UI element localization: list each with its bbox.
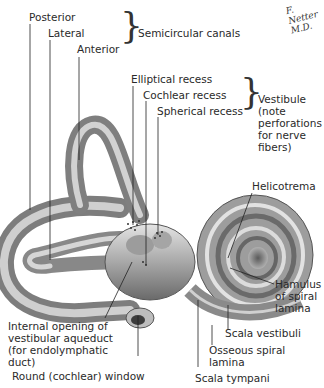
label-spherical-recess: Spherical recess — [157, 105, 243, 117]
label-semicircular-canals: Semicircular canals — [138, 27, 240, 39]
label-cochlear-recess: Cochlear recess — [143, 89, 226, 101]
label-scala-tympani: Scala tympani — [195, 372, 270, 384]
label-vestibular-aqueduct: Internal opening of vestibular aqueduct … — [8, 320, 113, 368]
label-scala-vestibuli: Scala vestibuli — [225, 327, 301, 339]
label-helicotrema: Helicotrema — [252, 180, 316, 192]
label-anterior: Anterior — [77, 43, 119, 55]
label-elliptical-recess: Elliptical recess — [131, 73, 212, 85]
label-vestibule: Vestibule (note perforations for nerve f… — [258, 93, 322, 153]
label-hamulus: Hamulus of spiral lamina — [275, 278, 321, 314]
label-osseous-spiral-lamina: Osseous spiral lamina — [209, 344, 285, 368]
label-round-window: Round (cochlear) window — [12, 370, 145, 382]
brace-semicircular: } — [120, 6, 143, 46]
vestibule — [105, 224, 195, 300]
label-posterior: Posterior — [29, 11, 75, 23]
label-lateral: Lateral — [48, 27, 85, 39]
